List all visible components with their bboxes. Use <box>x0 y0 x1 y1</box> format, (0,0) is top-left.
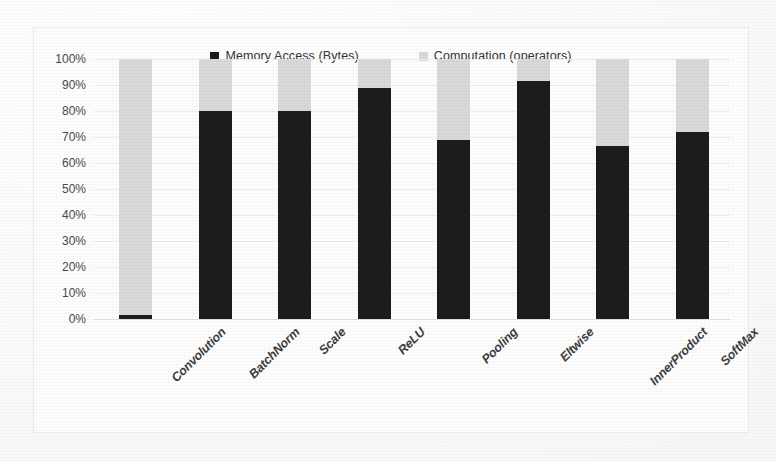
bar-segment-computation-convolution[interactable] <box>119 59 152 315</box>
x-axis-label-scale: Scale <box>316 325 348 357</box>
y-axis: 100%90%80%70%60%50%40%30%20%10%0% <box>34 59 90 319</box>
bar-segment-memory-access-pooling[interactable] <box>437 140 470 319</box>
bar-segment-computation-pooling[interactable] <box>437 59 470 140</box>
bar-segment-memory-access-scale[interactable] <box>278 111 311 319</box>
y-axis-tick-0: 0% <box>69 312 86 326</box>
x-axis-label-batchnorm: BatchNorm <box>246 325 302 381</box>
y-axis-tick-80: 80% <box>62 104 86 118</box>
bar-column-pooling[interactable] <box>437 59 470 319</box>
bar-segment-memory-access-relu[interactable] <box>358 88 391 319</box>
bar-column-scale[interactable] <box>278 59 311 319</box>
y-axis-tick-50: 50% <box>62 182 86 196</box>
x-axis-label-convolution: Convolution <box>168 325 228 385</box>
plot-wrapper: 100%90%80%70%60%50%40%30%20%10%0% Convol… <box>34 28 750 434</box>
x-axis-label-softmax: SoftMax <box>718 325 761 368</box>
plot-area <box>94 59 730 319</box>
x-axis-labels: ConvolutionBatchNormScaleReLUPoolingEltw… <box>94 319 730 419</box>
y-axis-tick-40: 40% <box>62 208 86 222</box>
bar-segment-computation-batchnorm[interactable] <box>199 59 232 111</box>
bar-column-batchnorm[interactable] <box>199 59 232 319</box>
bar-segment-computation-innerproduct[interactable] <box>596 59 629 146</box>
bar-segment-memory-access-batchnorm[interactable] <box>199 111 232 319</box>
chart-frame: Memory Access (Bytes) Computation (opera… <box>33 27 749 433</box>
y-axis-tick-100: 100% <box>55 52 86 66</box>
bar-series-group <box>94 59 730 319</box>
y-axis-tick-70: 70% <box>62 130 86 144</box>
bar-segment-computation-softmax[interactable] <box>676 59 709 132</box>
x-axis-label-relu: ReLU <box>396 325 428 357</box>
page-background: Memory Access (Bytes) Computation (opera… <box>0 0 776 461</box>
bar-segment-memory-access-innerproduct[interactable] <box>596 146 629 319</box>
bar-column-innerproduct[interactable] <box>596 59 629 319</box>
y-axis-tick-20: 20% <box>62 260 86 274</box>
bar-segment-computation-eltwise[interactable] <box>517 59 550 81</box>
bar-segment-computation-relu[interactable] <box>358 59 391 88</box>
x-axis-label-pooling: Pooling <box>479 325 520 366</box>
bar-column-eltwise[interactable] <box>517 59 550 319</box>
x-axis-label-eltwise: Eltwise <box>557 325 596 364</box>
bar-segment-computation-scale[interactable] <box>278 59 311 111</box>
y-axis-tick-10: 10% <box>62 286 86 300</box>
y-axis-tick-30: 30% <box>62 234 86 248</box>
bar-column-softmax[interactable] <box>676 59 709 319</box>
y-axis-tick-90: 90% <box>62 78 86 92</box>
bar-segment-memory-access-softmax[interactable] <box>676 132 709 319</box>
x-axis-label-innerproduct: InnerProduct <box>647 325 710 388</box>
bar-column-convolution[interactable] <box>119 59 152 319</box>
bar-segment-memory-access-eltwise[interactable] <box>517 81 550 319</box>
y-axis-tick-60: 60% <box>62 156 86 170</box>
bar-column-relu[interactable] <box>358 59 391 319</box>
